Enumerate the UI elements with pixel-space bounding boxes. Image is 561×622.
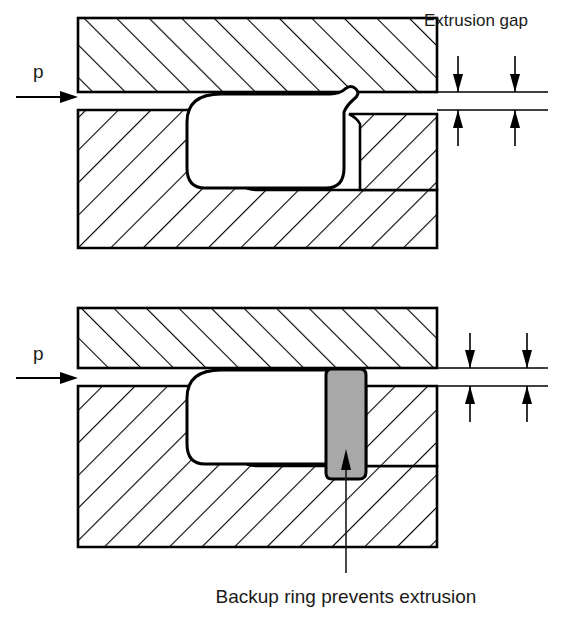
lower-panel-housing-right-land [366,386,437,466]
upper-housing-block [78,18,437,92]
o-ring-seal [187,87,358,189]
upper-housing-block-body [78,18,437,92]
o-ring-seal-body [187,87,358,189]
lower-housing-right-land [349,114,437,190]
pressure-label-lower: p [33,343,44,364]
extrusion-gap-label: Extrusion gap [424,11,528,30]
pressure-label-upper: p [33,61,44,82]
oring-extrusion-figure: p Extrusion gap [0,0,561,622]
backup-ring-caption: Backup ring prevents extrusion [216,586,477,607]
lower-panel-upper-housing-block [78,308,437,368]
figure-canvas: p Extrusion gap [0,0,561,622]
lower-panel-o-ring-seal-body [187,370,328,464]
